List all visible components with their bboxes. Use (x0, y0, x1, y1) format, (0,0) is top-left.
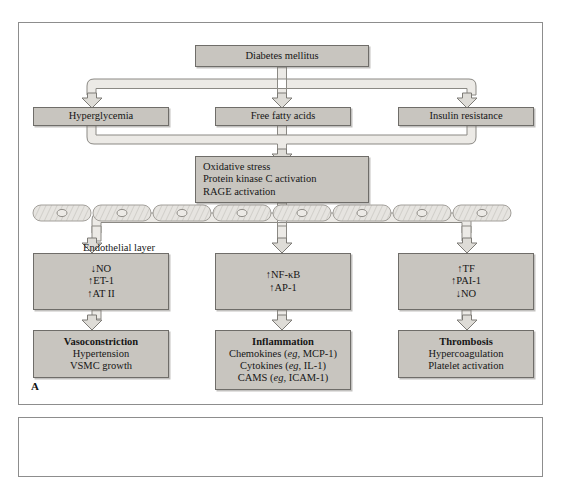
mediator-line-2: ↑ET-1 (88, 275, 114, 287)
panel-a: .rb{fill:#eceae6;stroke:#8b8984;stroke-w… (18, 22, 543, 405)
node-diabetes-mellitus[interactable]: Diabetes mellitus (195, 45, 369, 67)
panel-b (18, 417, 543, 477)
mediator-line-3: ↓NO (456, 288, 476, 300)
outcome-item-emph: eg, (274, 372, 287, 383)
mediator-line-1: ↓NO (91, 263, 111, 275)
outcome-title: Thrombosis (439, 336, 493, 348)
mechanism-line-2: Protein kinase C activation (203, 173, 316, 185)
mediator-line-2: ↑PAI-1 (451, 275, 481, 287)
node-outcome-thrombosis[interactable]: Thrombosis Hypercoagulation Platelet act… (398, 330, 534, 378)
outcome-item-1: Hypertension (73, 348, 130, 360)
mechanism-line-1: Oxidative stress (203, 161, 270, 173)
outcome-item-2: VSMC growth (70, 360, 132, 372)
outcome-title: Vasoconstriction (64, 336, 138, 348)
node-label: Hyperglycemia (69, 110, 134, 122)
mediator-line-1: ↑TF (457, 263, 475, 275)
outcome-item-2: Cytokines (eg, IL-1) (240, 360, 326, 372)
node-free-fatty-acids[interactable]: Free fatty acids (215, 107, 351, 126)
node-oxidative-stress-mechanisms[interactable]: Oxidative stress Protein kinase C activa… (195, 156, 369, 203)
node-label: Insulin resistance (429, 110, 502, 122)
endothelial-cell-icon (33, 205, 511, 221)
outcome-item-tail: IL-1) (301, 360, 326, 371)
outcome-item-1: Chemokines (eg, MCP-1) (229, 348, 337, 360)
cell-nucleus-icon (57, 209, 487, 216)
outcome-item-text: Cytokines ( (240, 360, 289, 371)
outcome-item-tail: MCP-1) (300, 348, 337, 359)
node-mediators-thrombosis[interactable]: ↑TF ↑PAI-1 ↓NO (398, 253, 534, 310)
node-hyperglycemia[interactable]: Hyperglycemia (33, 107, 169, 126)
node-outcome-inflammation[interactable]: Inflammation Chemokines (eg, MCP-1) Cyto… (215, 330, 351, 390)
mediator-line-1: ↑NF-κB (266, 269, 300, 281)
mechanism-line-3: RAGE activation (203, 186, 276, 198)
node-mediators-inflammation[interactable]: ↑NF-κB ↑AP-1 (215, 253, 351, 310)
outcome-item-2: Platelet activation (428, 360, 504, 372)
outcome-item-text: Platelet activation (428, 360, 504, 371)
endothelial-layer (31, 201, 531, 227)
outcome-item-3: CAMS (eg, ICAM-1) (238, 372, 329, 384)
outcome-item-emph: eg, (289, 360, 302, 371)
endothelial-layer-label: Endothelial layer (83, 242, 155, 253)
outcome-item-text: Hypertension (73, 348, 130, 359)
node-insulin-resistance[interactable]: Insulin resistance (398, 107, 534, 126)
mediator-line-2: ↑AP-1 (269, 282, 296, 294)
node-label: Free fatty acids (251, 110, 316, 122)
outcome-item-1: Hypercoagulation (428, 348, 503, 360)
outcome-item-tail: ICAM-1) (286, 372, 328, 383)
outcome-item-text: Hypercoagulation (428, 348, 503, 359)
outcome-item-emph: eg, (288, 348, 301, 359)
outcome-item-text: Chemokines ( (229, 348, 288, 359)
node-outcome-vasoconstriction[interactable]: Vasoconstriction Hypertension VSMC growt… (33, 330, 169, 378)
outcome-title: Inflammation (252, 336, 314, 348)
down-block-arrow-icon (82, 93, 477, 108)
mediator-line-3: ↑AT II (87, 288, 115, 300)
down-block-arrow-icon (82, 315, 477, 330)
outcome-item-text: VSMC growth (70, 360, 132, 371)
node-label: Diabetes mellitus (245, 50, 318, 62)
node-mediators-vasoconstriction[interactable]: ↓NO ↑ET-1 ↑AT II (33, 253, 169, 310)
outcome-item-text: CAMS ( (238, 372, 274, 383)
